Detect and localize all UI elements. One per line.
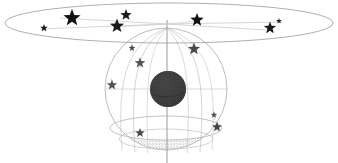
- star-plane-4: [120, 9, 131, 20]
- figure-canvas: [0, 0, 338, 163]
- shaded-bottom-cap-rim: [110, 116, 222, 140]
- plane-trail-right-inner: [167, 24, 266, 30]
- star-plane-2: [63, 9, 80, 25]
- star-plane-3: [110, 19, 124, 33]
- central-body-shading: [150, 71, 186, 107]
- star-sphere-2: [135, 57, 146, 67]
- star-plane-7: [276, 18, 282, 23]
- star-plane-1: [40, 24, 48, 31]
- star-sphere-7: [135, 128, 145, 137]
- celestial-sphere-figure: [0, 0, 338, 163]
- star-sphere-4: [188, 43, 200, 55]
- galactic-plane-disk: [5, 3, 333, 43]
- star-plane-6: [264, 22, 276, 34]
